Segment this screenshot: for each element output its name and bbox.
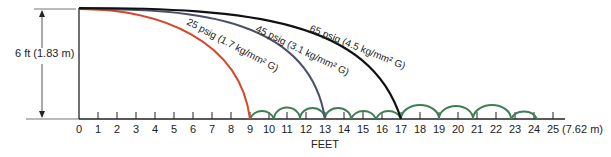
height-label: 6 ft (1.83 m) xyxy=(15,47,74,59)
arrow-up-icon xyxy=(39,10,45,17)
svg-text:11: 11 xyxy=(281,123,292,135)
svg-text:22: 22 xyxy=(490,123,502,135)
bounce-arcs xyxy=(250,105,537,119)
svg-text:0: 0 xyxy=(76,123,82,135)
trajectory-diagram: 6 ft (1.83 m) 0 1 2 3 4 5 6 7 8 9 10 11 … xyxy=(0,0,611,157)
svg-text:23: 23 xyxy=(509,123,521,135)
svg-text:10: 10 xyxy=(263,123,275,135)
svg-text:21: 21 xyxy=(471,123,483,135)
svg-text:8: 8 xyxy=(228,123,234,135)
svg-text:4: 4 xyxy=(152,123,158,135)
svg-text:1: 1 xyxy=(95,123,101,135)
x-axis-metric-end-label: (7.62 m) xyxy=(562,123,603,135)
svg-text:12: 12 xyxy=(300,123,312,135)
svg-text:3: 3 xyxy=(133,123,139,135)
svg-text:16: 16 xyxy=(376,123,388,135)
svg-text:24: 24 xyxy=(528,123,540,135)
svg-text:19: 19 xyxy=(433,123,445,135)
svg-text:9: 9 xyxy=(247,123,253,135)
arrow-down-icon xyxy=(39,111,45,118)
svg-text:18: 18 xyxy=(414,123,426,135)
svg-text:13: 13 xyxy=(319,123,331,135)
x-axis-tick-labels: 0 1 2 3 4 5 6 7 8 9 10 11 12 13 14 15 16… xyxy=(76,123,559,135)
svg-text:2: 2 xyxy=(114,123,120,135)
trajectory-65-psig xyxy=(79,8,401,119)
svg-text:14: 14 xyxy=(338,123,350,135)
svg-text:7: 7 xyxy=(209,123,215,135)
svg-text:6: 6 xyxy=(190,123,196,135)
x-axis-title: FEET xyxy=(311,138,339,150)
label-25-psig: 25 psig (1.7 kg/mm² G) xyxy=(185,16,280,74)
svg-text:25: 25 xyxy=(547,123,559,135)
svg-text:17: 17 xyxy=(395,123,407,135)
svg-text:20: 20 xyxy=(452,123,464,135)
svg-text:15: 15 xyxy=(357,123,369,135)
trajectory-25-psig xyxy=(79,9,250,119)
svg-text:5: 5 xyxy=(171,123,177,135)
